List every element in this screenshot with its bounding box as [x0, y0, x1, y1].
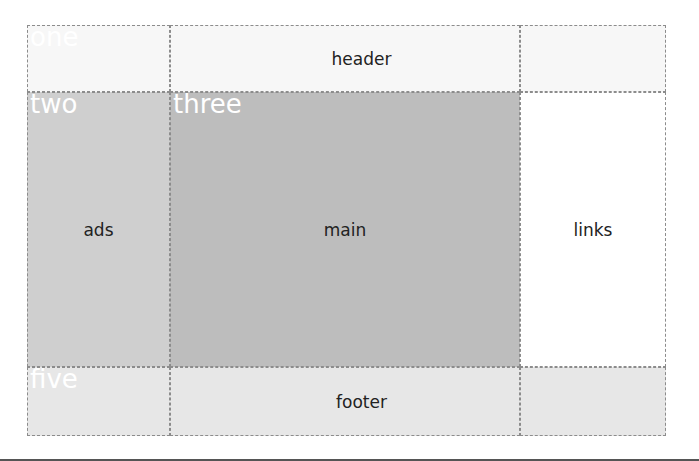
ads-label: ads [83, 220, 113, 240]
main-area: main [170, 92, 520, 367]
footer-area: footer [27, 367, 666, 436]
header-area: header [27, 25, 666, 92]
footer-label: footer [336, 392, 387, 412]
links-label: links [574, 220, 613, 240]
links-area: links [520, 92, 666, 367]
header-label: header [332, 49, 392, 69]
css-grid-diagram: header ads main links footer one two thr… [27, 25, 666, 436]
main-label: main [324, 220, 366, 240]
ads-area: ads [27, 92, 170, 367]
